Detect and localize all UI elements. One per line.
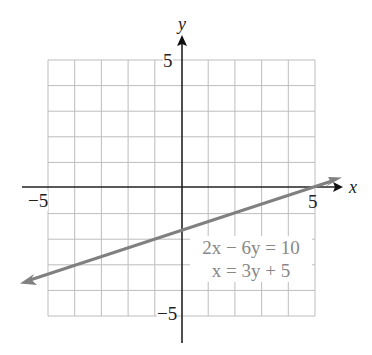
x-tick-neg5: −5 [28,191,48,211]
y-tick-5: 5 [163,51,173,71]
x-axis-label: x [349,177,357,198]
y-tick-neg5: −5 [157,304,177,324]
equation-standard-form: 2x − 6y = 10 [190,236,312,259]
y-axis-label: y [178,14,186,35]
x-tick-5: 5 [308,191,318,213]
graph-canvas [0,0,372,355]
axes [22,44,336,343]
equation-solved-form: x = 3y + 5 [190,259,312,282]
equation-label: 2x − 6y = 10 x = 3y + 5 [190,236,312,282]
